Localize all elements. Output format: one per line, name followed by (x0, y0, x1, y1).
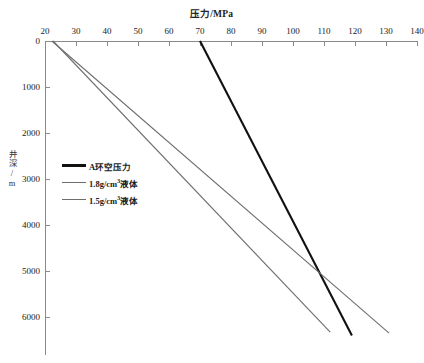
series-line (200, 41, 352, 335)
legend-color-swatch (62, 182, 86, 183)
legend-color-swatch (62, 164, 86, 166)
chart-legend: A环空压力1.8g/cm3液体1.5g/cm3液体 (62, 157, 138, 208)
legend-item-label: 1.5g/cm3液体 (89, 194, 138, 206)
legend-item-label: A环空压力 (89, 160, 131, 172)
legend-color-swatch (62, 199, 86, 200)
legend-item[interactable]: 1.8g/cm3液体 (62, 174, 138, 191)
legend-item[interactable]: A环空压力 (62, 157, 138, 174)
legend-item[interactable]: 1.5g/cm3液体 (62, 191, 138, 208)
legend-item-label: 1.8g/cm3液体 (89, 177, 138, 189)
